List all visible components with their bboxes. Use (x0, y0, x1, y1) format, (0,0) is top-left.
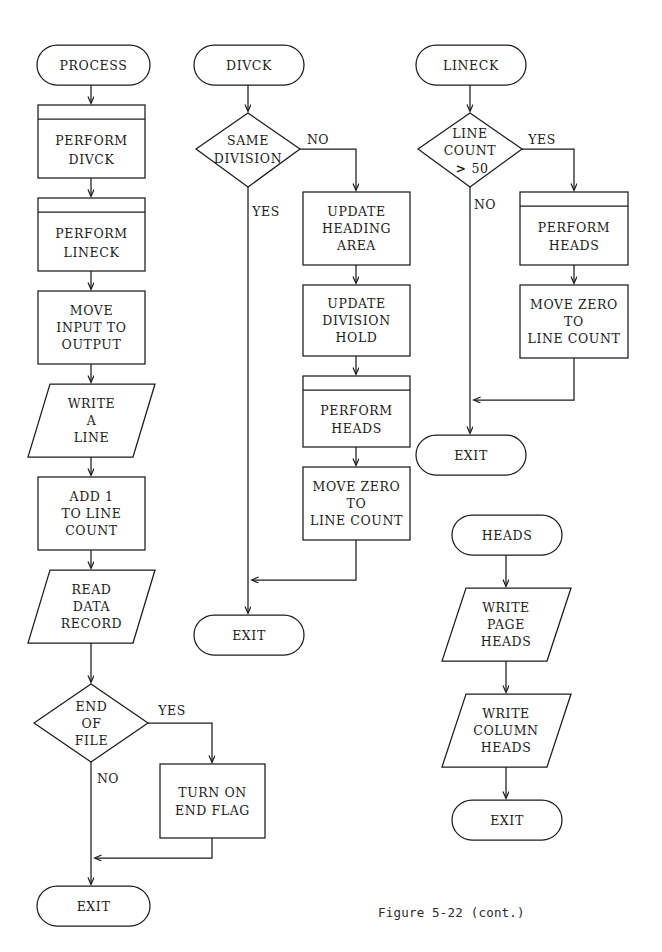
routine-process: PROCESS PERFORM DIVCK PERFORM LINECK MOV… (28, 45, 265, 926)
node-label-line2: LINECK (64, 245, 120, 260)
node-label-line2: HEADS (549, 238, 600, 253)
routine-divck: DIVCK SAME DIVISION NO YES UPDATE HEADIN… (194, 45, 410, 655)
node-write-page-heads: WRITE PAGE HEADS (442, 588, 571, 661)
node-perform-lineck: PERFORM LINECK (38, 198, 145, 271)
process-shape (160, 764, 265, 838)
node-label-line2: HEADS (331, 421, 382, 436)
node-write-column-heads: WRITE COLUMN HEADS (442, 694, 571, 767)
node-label-line1: END (76, 699, 108, 714)
node-update-division-hold: UPDATE DIVISION HOLD (303, 285, 410, 356)
node-label-line1: PERFORM (320, 403, 392, 418)
node-lineck-exit: EXIT (416, 435, 526, 475)
routine-heads: HEADS WRITE PAGE HEADS WRITE COLUMN HEAD… (442, 515, 571, 840)
node-label-line1: READ (72, 582, 112, 597)
node-label-line2: END FLAG (175, 803, 250, 818)
node-label-line2: TO (347, 496, 367, 511)
node-label-line1: TURN ON (178, 785, 247, 800)
node-label-line3: LINE (74, 430, 110, 445)
node-write-a-line: WRITE A LINE (28, 384, 155, 457)
node-lineck-perform-heads: PERFORM HEADS (520, 192, 628, 265)
edge-count-yes-to-heads (522, 149, 574, 190)
node-label-line2: DIVCK (69, 152, 115, 167)
branch-label-yes: YES (527, 132, 555, 147)
edge-zero-to-merge (252, 540, 356, 580)
node-label-line1: PERFORM (55, 133, 127, 148)
node-read-data-record: READ DATA RECORD (28, 570, 155, 643)
node-label-line1: MOVE ZERO (313, 479, 401, 494)
node-label: HEADS (482, 528, 533, 543)
node-lineck-move-zero: MOVE ZERO TO LINE COUNT (520, 285, 628, 358)
node-label-line3: AREA (336, 238, 376, 253)
node-label-line2: DIVISION (322, 313, 390, 328)
node-label-line1: UPDATE (327, 204, 385, 219)
node-label-line2: TO (564, 314, 584, 329)
node-label: DIVCK (226, 58, 272, 73)
edge-same-no-to-heading (300, 149, 356, 190)
node-add-one-line-count: ADD 1 TO LINE COUNT (38, 477, 145, 550)
node-label-line3: HOLD (336, 330, 378, 345)
node-label-line2: HEADING (322, 221, 391, 236)
node-label-line1: ADD 1 (69, 489, 114, 504)
node-label-line2: TO LINE (61, 506, 121, 521)
node-label-line2: COUNT (444, 143, 497, 158)
node-move-input-output: MOVE INPUT TO OUTPUT (38, 291, 145, 364)
node-label-line2: PAGE (487, 617, 525, 632)
node-label-line3: HEADS (481, 740, 532, 755)
node-label-line1: MOVE ZERO (530, 297, 618, 312)
node-update-heading-area: UPDATE HEADING AREA (303, 192, 410, 265)
node-label: PROCESS (60, 58, 128, 73)
flowchart-svg: PROCESS PERFORM DIVCK PERFORM LINECK MOV… (0, 0, 662, 952)
node-label-line2: INPUT TO (56, 320, 126, 335)
node-process-start: PROCESS (37, 45, 150, 85)
node-label: LINECK (443, 58, 499, 73)
node-label: EXIT (77, 899, 111, 914)
node-label-line2: A (86, 413, 97, 428)
node-label-line1: WRITE (482, 600, 530, 615)
node-label-line2: DATA (73, 599, 111, 614)
node-label-line3: RECORD (61, 616, 122, 631)
node-label-line2: DIVISION (214, 151, 282, 166)
routine-lineck: LINECK LINE COUNT > 50 YES NO PERFORM HE… (416, 45, 628, 475)
branch-label-yes: YES (251, 204, 279, 219)
node-label-line2: OF (81, 716, 101, 731)
figure-caption: Figure 5-22 (cont.) (378, 905, 525, 920)
branch-label-no: NO (474, 197, 496, 212)
branch-label-yes: YES (157, 703, 185, 718)
node-label-line1: WRITE (482, 706, 530, 721)
node-divck-perform-heads: PERFORM HEADS (303, 376, 410, 447)
node-label-line1: PERFORM (55, 226, 127, 241)
node-divck-exit: EXIT (194, 615, 304, 655)
node-divck-move-zero: MOVE ZERO TO LINE COUNT (303, 467, 410, 540)
node-label-line2: COLUMN (473, 723, 538, 738)
node-label-line1: LINE (452, 126, 488, 141)
edge-zero-to-merge (474, 358, 574, 400)
node-perform-divck: PERFORM DIVCK (38, 105, 145, 178)
node-label-line1: PERFORM (538, 220, 610, 235)
node-turn-on-end-flag: TURN ON END FLAG (160, 764, 265, 838)
node-label-line3: OUTPUT (62, 337, 122, 352)
node-label-line3: LINE COUNT (310, 513, 403, 528)
node-label-threshold: 50 (471, 161, 488, 176)
edge-eof-yes-to-flag (148, 723, 212, 762)
node-label-line1: SAME (227, 133, 269, 148)
node-heads-start: HEADS (452, 515, 562, 555)
node-lineck-start: LINECK (416, 45, 526, 85)
node-label-line1: WRITE (68, 396, 116, 411)
node-label-line1: MOVE (70, 303, 113, 318)
node-label-line3: COUNT (65, 523, 118, 538)
branch-label-no: NO (307, 132, 329, 147)
node-label-line1: UPDATE (327, 296, 385, 311)
flowchart-canvas: PROCESS PERFORM DIVCK PERFORM LINECK MOV… (0, 0, 662, 952)
greater-than-icon: > (455, 161, 466, 176)
node-label: EXIT (490, 813, 524, 828)
node-label: EXIT (454, 448, 488, 463)
node-label-line3: FILE (75, 733, 108, 748)
node-heads-exit: EXIT (452, 800, 562, 840)
node-label-line3: HEADS (481, 634, 532, 649)
node-label-line3: LINE COUNT (528, 331, 621, 346)
edge-flag-to-merge (95, 838, 212, 858)
node-divck-start: DIVCK (194, 45, 304, 85)
node-process-exit: EXIT (37, 886, 150, 926)
node-label: EXIT (232, 628, 266, 643)
branch-label-no: NO (97, 771, 119, 786)
